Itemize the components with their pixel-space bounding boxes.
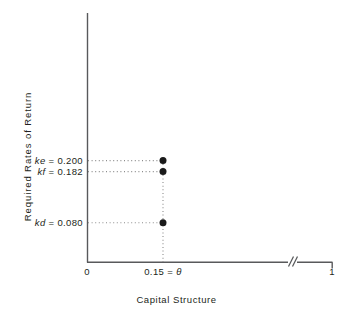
series-symbol-kd: kd — [35, 217, 46, 228]
data-point-kd — [160, 219, 167, 226]
series-symbol-ke: ke — [35, 155, 46, 166]
series-value-ke: = 0.200 — [46, 155, 83, 166]
x-tick-label-theta: 0.15 = θ — [128, 266, 198, 277]
axis-break-icon — [289, 257, 298, 267]
x-axis-title: Capital Structure — [0, 294, 353, 305]
x-tick-label-zero: 0 — [78, 266, 96, 277]
theta-symbol: θ — [176, 266, 182, 277]
data-point-kf — [160, 168, 167, 175]
series-symbol-kf: kf — [38, 166, 46, 177]
series-value-kd: = 0.080 — [46, 217, 83, 228]
x-tick-theta-number: 0.15 = — [144, 266, 176, 277]
series-label-kd: kd = 0.080 — [0, 217, 83, 228]
series-label-ke: ke = 0.200 — [0, 155, 83, 166]
chart-figure: Required Rates of Return Capital Structu… — [0, 0, 353, 315]
x-tick-label-one: 1 — [323, 266, 341, 277]
series-label-kf: kf = 0.182 — [0, 166, 83, 177]
data-point-ke — [160, 157, 167, 164]
series-value-kf: = 0.182 — [46, 166, 83, 177]
